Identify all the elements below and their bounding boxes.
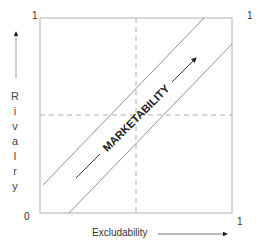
y-letter: a [10,134,20,149]
y-letter: l [10,149,20,164]
x-axis-label: Excludability [92,227,148,238]
y-letter: v [10,119,20,134]
upper-diagonal-line [43,18,204,185]
lower-diagonal-line [69,44,232,213]
x-max-label: 1 [237,216,243,227]
y-letter: y [10,179,20,194]
y-letter: R [10,89,20,104]
origin-label: 0 [24,211,30,222]
y-letter: i [10,104,20,119]
y-axis-label: R i v a l r y [10,89,20,194]
y-max-label: 1 [32,10,38,21]
marketability-arrow-head [172,58,196,82]
diagram-canvas: MARKETABILITY [0,0,261,250]
top-right-one-label: 1 [247,10,253,21]
y-letter: r [10,164,20,179]
marketability-arrow-tail [76,154,100,178]
